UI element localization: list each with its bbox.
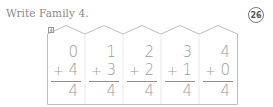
first-addend: 4	[220, 45, 230, 60]
sum: 4	[68, 84, 78, 99]
plus-sign: +	[167, 63, 178, 78]
plus-sign: +	[205, 63, 216, 78]
second-addend: 2	[144, 63, 154, 78]
problem-panel: 0 + 4 4	[47, 43, 85, 103]
second-addend: 1	[182, 63, 192, 78]
first-addend: 3	[182, 45, 192, 60]
problem-panel: 4 + 0 4	[199, 43, 237, 103]
sum: 4	[182, 84, 192, 99]
sum: 4	[144, 84, 154, 99]
fact-family-houses: 4 0 + 4 4 1 + 3 4 2 + 2 4 3 + 1 4	[47, 24, 238, 105]
second-addend: 4	[68, 63, 78, 78]
second-addend: 3	[106, 63, 116, 78]
plus-sign: +	[91, 63, 102, 78]
sum: 4	[220, 84, 230, 99]
family-number-tag: 4	[48, 27, 54, 33]
problem-panel: 3 + 1 4	[161, 43, 199, 103]
first-addend: 1	[106, 45, 116, 60]
sum: 4	[106, 84, 116, 99]
first-addend: 0	[68, 45, 78, 60]
plus-sign: +	[129, 63, 140, 78]
page-number-badge: 26	[248, 7, 264, 23]
second-addend: 0	[220, 63, 230, 78]
plus-sign: +	[53, 63, 64, 78]
instruction-text: Write Family 4.	[6, 7, 89, 19]
problem-panel: 1 + 3 4	[85, 43, 123, 103]
first-addend: 2	[144, 45, 154, 60]
problem-panel: 2 + 2 4	[123, 43, 161, 103]
